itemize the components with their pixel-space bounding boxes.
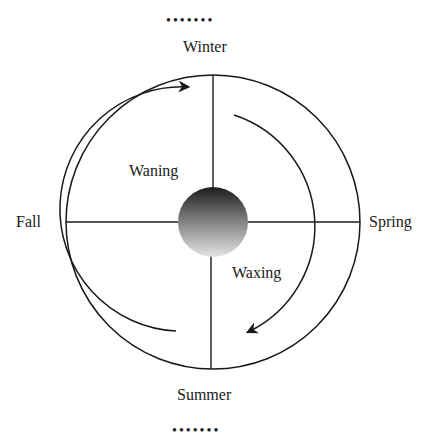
label-waning: Waning [129, 162, 178, 180]
label-fall: Fall [16, 213, 41, 231]
label-winter: Winter [183, 38, 227, 56]
center-sphere [178, 187, 248, 257]
label-waxing: Waxing [232, 264, 281, 282]
seasonal-cycle-diagram [0, 0, 427, 441]
label-spring: Spring [369, 213, 412, 231]
bottom-ornament: ••••••• [172, 426, 220, 436]
waning-arrow [60, 87, 188, 331]
label-summer: Summer [177, 386, 231, 404]
